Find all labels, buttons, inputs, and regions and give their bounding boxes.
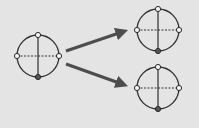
top-node-open bbox=[35, 32, 40, 37]
left-node-open bbox=[134, 85, 139, 90]
background bbox=[0, 0, 199, 128]
left-node-open bbox=[14, 53, 19, 58]
split-diagram bbox=[0, 0, 199, 128]
top-node-open bbox=[155, 6, 160, 11]
right-node-open bbox=[176, 85, 181, 90]
top-node-open bbox=[155, 64, 160, 69]
left-node-open bbox=[134, 27, 139, 32]
right-node-open bbox=[176, 27, 181, 32]
right-node-open bbox=[56, 53, 61, 58]
bottom-node-filled bbox=[155, 48, 160, 53]
bottom-node-filled bbox=[35, 74, 40, 79]
bottom-node-filled bbox=[155, 106, 160, 111]
